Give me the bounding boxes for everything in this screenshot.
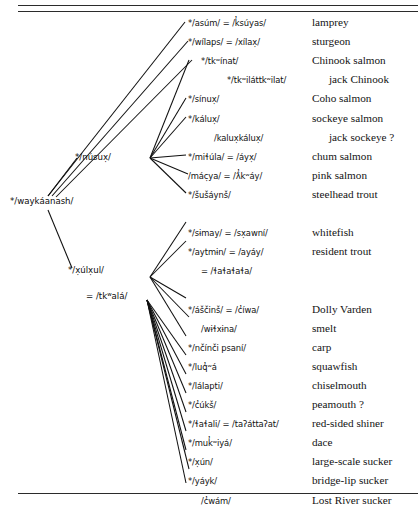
entry-form: */nčínči psaní/	[188, 344, 246, 353]
entry-gloss: carp	[312, 342, 331, 353]
entry-form: /mác̣ya/ = /ƛ̓kʷáy/	[188, 172, 262, 181]
entry-form: */tkʷínat/	[201, 57, 238, 66]
entry-form: = /ɬaɬaɬaɬa/	[201, 267, 252, 276]
entry-form: */asúm/ = /k̓súyas/	[188, 19, 266, 28]
entry-gloss: sturgeon	[312, 36, 350, 47]
entry-form: */áščinš/ = /c̓íwa/	[188, 306, 259, 315]
entry-gloss: chum salmon	[312, 151, 372, 162]
node-xulxul-alt: = /tkʷalá/	[86, 292, 127, 301]
entry-form: */wílaps/ = /xílax̣/	[188, 38, 260, 47]
entry-gloss: whitefish	[312, 227, 354, 238]
node-nusux: */núsux̣/	[75, 153, 111, 162]
entry-gloss: dace	[312, 437, 333, 448]
entry-gloss: red-sided shiner	[312, 418, 384, 429]
entry-form: */šušáynš/	[188, 191, 231, 200]
entry-form: */x̣ún/	[188, 458, 213, 467]
entry-gloss: jack sockeye ?	[329, 132, 394, 143]
entry-form: */ɬaɬali/ = /taʔáttaʔat/	[188, 420, 279, 429]
entry-gloss: large-scale sucker	[312, 456, 392, 467]
entry-form: */yáyk/	[188, 477, 217, 486]
entry-gloss: bridge-lip sucker	[312, 475, 388, 486]
node-xulxul: */x̣úlx̣ul/	[68, 266, 104, 275]
entry-gloss: lamprey	[312, 17, 349, 28]
entry-gloss: Lost River sucker	[312, 495, 392, 506]
entry-gloss: steelhead trout	[312, 189, 378, 200]
entry-form: /c̓wám/	[201, 497, 231, 506]
entry-form: /kalux̣kálux̣/	[214, 134, 263, 143]
entry-form: */lálapti/	[188, 382, 223, 391]
entry-gloss: peamouth ?	[312, 399, 364, 410]
entry-form: */aytmɨn/ = /ayáy/	[188, 248, 263, 257]
entry-form: */miɬúla/ = /áyx̣/	[188, 153, 257, 162]
entry-form: */tkʷiláttkʷilat/	[227, 76, 286, 85]
entry-form: /wɨɬxɨna/	[201, 325, 237, 334]
entry-form: */luq̓ʷá	[188, 363, 217, 372]
entry-gloss: Chinook salmon	[312, 55, 386, 66]
entry-gloss: Coho salmon	[312, 93, 371, 104]
entry-gloss: squawfish	[312, 361, 357, 372]
entry-gloss: smelt	[312, 323, 336, 334]
entry-form: */muk̓ʷiyá/	[188, 439, 232, 448]
entry-gloss: pink salmon	[312, 170, 367, 181]
entry-gloss: sockeye salmon	[312, 113, 383, 124]
entry-gloss: chiselmouth	[312, 380, 367, 391]
entry-form: */kálux̣/	[188, 115, 219, 124]
entry-form: */sɨmay/ = /sx̣awní/	[188, 229, 268, 238]
entry-form: */sínux̣/	[188, 95, 219, 104]
entry-gloss: Dolly Varden	[312, 304, 372, 315]
node-root: */waykáanash/	[10, 197, 73, 206]
entry-form: */c̓úkš/	[188, 401, 216, 410]
entry-gloss: jack Chinook	[329, 74, 389, 85]
entry-gloss: resident trout	[312, 246, 371, 257]
